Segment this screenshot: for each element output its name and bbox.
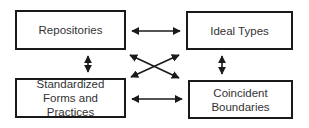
- node-label: Standardized Forms and Practices: [21, 77, 121, 119]
- node-label: Ideal Types: [210, 24, 269, 38]
- node-ideal-types: Ideal Types: [186, 11, 293, 50]
- node-label: Repositories: [39, 23, 103, 37]
- node-coincident-boundaries: Coincident Boundaries: [188, 80, 293, 119]
- node-label: Coincident Boundaries: [206, 86, 276, 114]
- node-repositories: Repositories: [15, 10, 126, 50]
- node-standardized-forms: Standardized Forms and Practices: [15, 78, 126, 118]
